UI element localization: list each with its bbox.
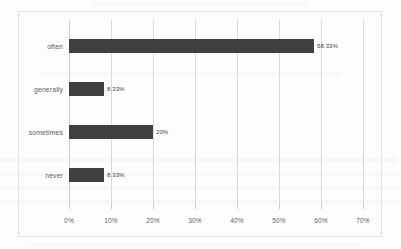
bar-row: never 8.33% (69, 168, 363, 182)
x-tick-label-30: 30% (188, 217, 202, 224)
tick-mark-10 (111, 205, 112, 209)
bar-row: often 58.33% (69, 39, 363, 53)
x-tick-label-20: 20% (146, 217, 160, 224)
bar-row: generally 8.33% (69, 82, 363, 96)
category-label-generally: generally (34, 86, 63, 93)
bar-generally[interactable] (69, 82, 104, 96)
bar-value-label-sometimes: 20% (156, 129, 168, 135)
category-label-often: often (47, 43, 63, 50)
x-tick-label-40: 40% (230, 217, 244, 224)
bar-often[interactable] (69, 39, 314, 53)
x-tick-label-50: 50% (272, 217, 286, 224)
bar-value-label-never: 8.33% (107, 172, 125, 178)
category-label-never: never (45, 172, 63, 179)
x-tick-label-0: 0% (64, 217, 74, 224)
x-tick-label-60: 60% (314, 217, 328, 224)
tick-mark-0 (69, 205, 70, 209)
tick-mark-40 (237, 205, 238, 209)
tick-mark-70 (363, 205, 364, 209)
scan-artifact (95, 2, 305, 6)
x-tick-label-70: 70% (356, 217, 370, 224)
tick-mark-30 (195, 205, 196, 209)
bar-row: sometimes 20% (69, 125, 363, 139)
bar-sometimes[interactable] (69, 125, 153, 139)
bar-never[interactable] (69, 168, 104, 182)
tick-mark-50 (279, 205, 280, 209)
scan-artifact (30, 243, 360, 247)
x-tick-label-10: 10% (104, 217, 118, 224)
tick-mark-20 (153, 205, 154, 209)
bar-value-label-generally: 8.33% (107, 86, 125, 92)
plot-area: 0% 10% 20% 30% 40% 50% 60% 70% often 58.… (69, 20, 363, 205)
chart-frame: 0% 10% 20% 30% 40% 50% 60% 70% often 58.… (18, 11, 382, 237)
tick-mark-60 (321, 205, 322, 209)
gridline-70 (363, 20, 364, 205)
category-label-sometimes: sometimes (29, 129, 63, 136)
bar-value-label-often: 58.33% (317, 43, 338, 49)
